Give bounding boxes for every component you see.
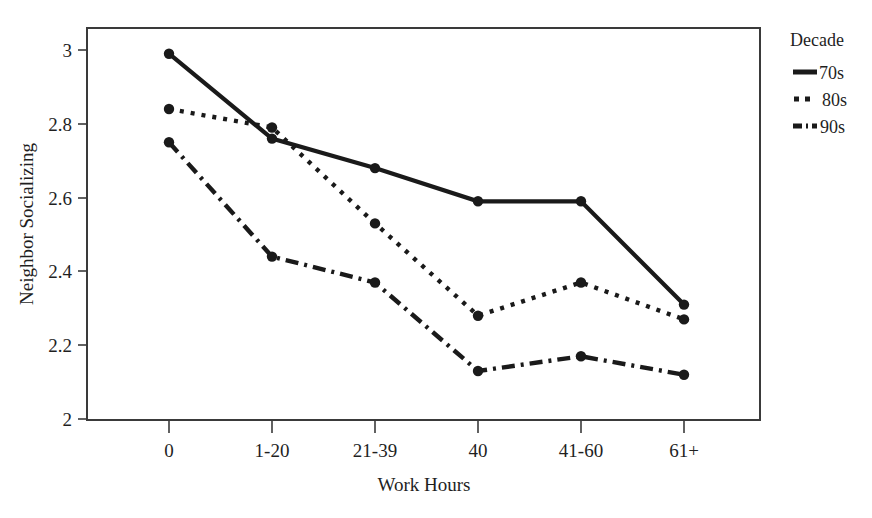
- x-tick-label-61plus: 61+: [669, 440, 699, 461]
- plot-frame-border: [87, 28, 760, 420]
- data-point-80s-0: [164, 104, 174, 114]
- data-point-70s-0: [164, 49, 174, 59]
- data-point-80s-41-60: [576, 277, 586, 287]
- data-point-70s-21-39: [370, 163, 380, 173]
- series-70s: [164, 49, 689, 310]
- data-point-90s-1-20: [267, 251, 277, 261]
- y-tick-label-2.4: 2.4: [48, 261, 72, 282]
- legend-entry-80s[interactable]: 80s: [794, 90, 847, 110]
- x-axis-title: Work Hours: [378, 474, 471, 495]
- data-point-80s-40: [473, 311, 483, 321]
- legend-entry-90s[interactable]: 90s: [793, 117, 845, 137]
- x-axis-ticks: [169, 420, 684, 433]
- y-tick-label-2.2: 2.2: [48, 335, 72, 356]
- series-line-90s: [169, 142, 684, 374]
- legend-label-80s: 80s: [822, 90, 847, 110]
- y-tick-label-2.6: 2.6: [48, 188, 72, 209]
- series-line-80s: [169, 109, 684, 319]
- y-axis-title: Neighbor Socializing: [16, 143, 37, 305]
- y-axis-ticks: [78, 50, 87, 419]
- data-point-80s-1-20: [267, 122, 277, 132]
- legend-label-90s: 90s: [820, 117, 845, 137]
- legend-label-70s: 70s: [819, 63, 844, 83]
- y-axis-tick-labels: 3 2.8 2.6 2.4 2.2 2: [48, 40, 72, 430]
- x-tick-label-41-60: 41-60: [559, 440, 603, 461]
- data-point-90s-61+: [679, 370, 689, 380]
- data-point-90s-41-60: [576, 351, 586, 361]
- line-chart-svg: 3 2.8 2.6 2.4 2.2 2 Neighbor Socializing…: [0, 0, 872, 518]
- x-axis-tick-labels: 0 1-20 21-39 40 41-60 61+: [164, 440, 699, 461]
- x-tick-label-1-20: 1-20: [255, 440, 290, 461]
- series-line-70s: [169, 54, 684, 305]
- data-point-80s-61+: [679, 314, 689, 324]
- series-80s: [164, 104, 689, 325]
- series-90s: [164, 137, 689, 380]
- legend: Decade 70s 80s 90s: [790, 30, 847, 137]
- data-point-70s-41-60: [576, 196, 586, 206]
- plot-frame: [87, 28, 760, 420]
- y-tick-label-3: 3: [63, 40, 73, 61]
- y-tick-label-2.8: 2.8: [48, 114, 72, 135]
- data-point-90s-40: [473, 366, 483, 376]
- legend-title: Decade: [790, 30, 844, 50]
- x-tick-label-40: 40: [469, 440, 488, 461]
- data-point-90s-21-39: [370, 277, 380, 287]
- y-tick-label-2: 2: [63, 409, 73, 430]
- data-point-90s-0: [164, 137, 174, 147]
- legend-entry-70s[interactable]: 70s: [793, 63, 844, 83]
- data-point-70s-1-20: [267, 133, 277, 143]
- data-point-80s-21-39: [370, 218, 380, 228]
- series-layer: [164, 49, 689, 380]
- x-tick-label-0: 0: [164, 440, 174, 461]
- chart-figure: 3 2.8 2.6 2.4 2.2 2 Neighbor Socializing…: [0, 0, 872, 518]
- data-point-70s-61+: [679, 299, 689, 309]
- x-tick-label-21-39: 21-39: [353, 440, 397, 461]
- data-point-70s-40: [473, 196, 483, 206]
